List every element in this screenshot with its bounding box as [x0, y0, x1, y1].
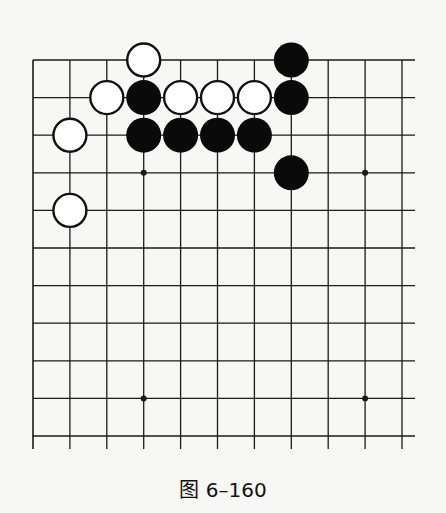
white-stone	[90, 81, 123, 114]
black-stone	[126, 118, 161, 153]
star-point	[362, 170, 368, 176]
white-stone	[53, 119, 86, 152]
black-stone	[274, 43, 309, 78]
figure-caption: 图 6–160	[0, 474, 446, 503]
white-stone	[127, 44, 160, 77]
white-stone	[164, 81, 197, 114]
white-stone	[238, 81, 271, 114]
black-stone	[200, 118, 235, 153]
star-point	[141, 395, 147, 401]
white-stone	[201, 81, 234, 114]
black-stone	[163, 118, 198, 153]
star-point	[362, 395, 368, 401]
black-stone	[274, 80, 309, 115]
black-stone	[126, 80, 161, 115]
black-stone	[274, 155, 309, 190]
black-stone	[237, 118, 272, 153]
star-point	[141, 170, 147, 176]
white-stone	[53, 194, 86, 227]
go-board	[0, 0, 446, 470]
